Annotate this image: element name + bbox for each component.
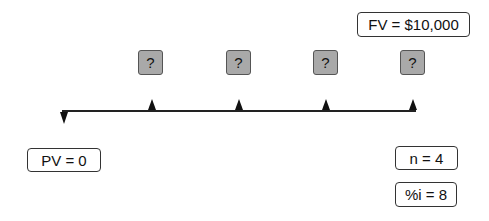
payment-arrow-period-1-icon (148, 99, 156, 110)
payment-box-period-4: ? (400, 50, 425, 75)
payment-box-period-2: ? (226, 50, 251, 75)
future-value-label: FV = $10,000 (357, 12, 470, 37)
payment-box-period-3: ? (313, 50, 338, 75)
payment-arrow-period-2-icon (235, 99, 243, 110)
payment-box-period-1: ? (138, 50, 163, 75)
timeline-axis (62, 110, 416, 112)
periods-label: n = 4 (395, 146, 458, 170)
present-value-arrow-icon (60, 112, 68, 124)
payment-arrow-period-3-icon (322, 99, 330, 110)
payment-arrow-period-4-icon (409, 99, 417, 110)
interest-rate-label: %i = 8 (395, 182, 457, 207)
present-value-label: PV = 0 (27, 148, 101, 172)
